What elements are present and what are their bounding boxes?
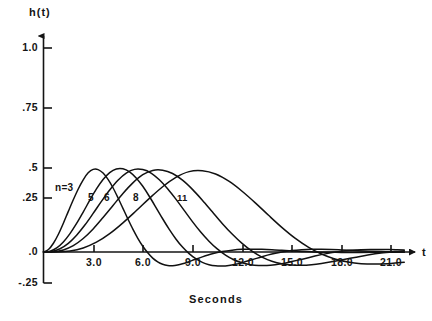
curve-label-6: 6 xyxy=(104,192,110,203)
curve-label-5: 5 xyxy=(88,192,94,203)
x-tick-label-9: 9.0 xyxy=(173,256,213,268)
x-axis-title: t xyxy=(422,246,427,258)
curve-label-8: 8 xyxy=(133,192,139,203)
x-tick-label-21: 21.0 xyxy=(371,256,411,268)
x-tick-label-3: 3.0 xyxy=(74,256,114,268)
y-axis-title: h(t) xyxy=(29,6,51,18)
x-tick-label-18: 18.0 xyxy=(322,256,362,268)
x-axis-caption: Seconds xyxy=(0,293,432,305)
x-tick-label-12: 12.0 xyxy=(223,256,263,268)
curve-label-n3: n=3 xyxy=(55,182,73,193)
x-tick-label-15: 15.0 xyxy=(272,256,312,268)
y-tick-label-075: .75 xyxy=(4,101,38,113)
x-tick-label-6: 6.0 xyxy=(123,256,163,268)
y-tick-label-025: .25 xyxy=(4,191,38,203)
y-tick-label-neg025: -.25 xyxy=(0,276,38,288)
impulse-response-figure: h(t) t 1.0 .75 .5 .25 .0 -.25 3.0 6.0 9.… xyxy=(0,0,432,321)
y-tick-label-1: 1.0 xyxy=(4,41,38,53)
y-tick-label-05: .5 xyxy=(4,161,38,173)
curve-label-11: 11 xyxy=(177,192,188,203)
chart-canvas xyxy=(0,0,432,321)
y-tick-label-0: .0 xyxy=(4,245,38,257)
